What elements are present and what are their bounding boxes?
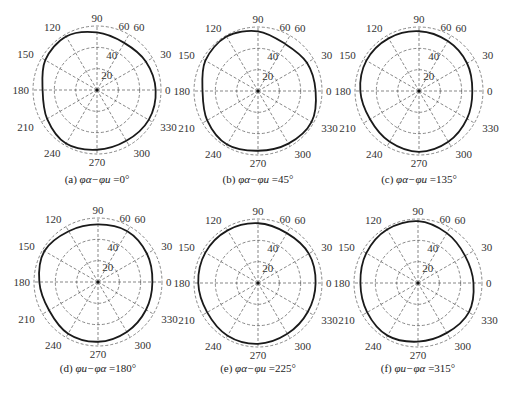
angle-label: 270 bbox=[89, 156, 106, 168]
grid-spoke bbox=[43, 282, 98, 314]
ring-label: 40 bbox=[428, 50, 440, 62]
angle-label: 150 bbox=[178, 49, 195, 61]
angle-label: 90 bbox=[413, 205, 425, 217]
angle-label: 210 bbox=[18, 313, 35, 325]
grid-spoke bbox=[258, 91, 290, 146]
angle-label: 120 bbox=[44, 21, 61, 33]
angle-label: 240 bbox=[366, 148, 383, 160]
ring-label: 20 bbox=[422, 262, 434, 274]
grid-spoke bbox=[418, 228, 450, 283]
grid-spoke bbox=[419, 91, 474, 123]
grid-spoke bbox=[363, 251, 418, 283]
panel-caption: (d) φu−φα =180° bbox=[60, 362, 136, 375]
ring-label: 60 bbox=[119, 212, 131, 224]
angle-label: 30 bbox=[481, 241, 493, 253]
pattern-curve bbox=[360, 31, 472, 152]
angle-label: 240 bbox=[205, 148, 222, 160]
ring-label: 60 bbox=[439, 213, 451, 225]
grid-spoke bbox=[258, 228, 290, 283]
center-dot bbox=[256, 89, 259, 92]
angle-label: 210 bbox=[178, 122, 195, 134]
panel-f: 0306090120150180210240270300330204060(f)… bbox=[334, 205, 499, 375]
ring-label: 40 bbox=[427, 242, 439, 254]
ring-label: 20 bbox=[102, 261, 114, 273]
panel-c: 0306090120150180210240270300330204060(c)… bbox=[335, 13, 500, 186]
angle-label: 330 bbox=[160, 121, 177, 133]
angle-label: 0 bbox=[326, 277, 332, 289]
angle-label: 0 bbox=[165, 84, 171, 96]
angle-label: 120 bbox=[365, 214, 382, 226]
center-dot bbox=[416, 281, 419, 284]
grid-spoke bbox=[258, 283, 313, 315]
angle-label: 30 bbox=[321, 49, 333, 61]
grid-spoke bbox=[226, 228, 258, 283]
grid-spoke bbox=[419, 36, 451, 91]
angle-label: 90 bbox=[414, 13, 426, 25]
angle-label: 30 bbox=[160, 48, 172, 60]
grid-spoke bbox=[419, 91, 451, 146]
ring-label: 40 bbox=[267, 50, 279, 62]
angle-label: 180 bbox=[174, 85, 191, 97]
angle-label: 330 bbox=[321, 122, 338, 134]
angle-label: 150 bbox=[17, 48, 34, 60]
angle-label: 60 bbox=[455, 214, 467, 226]
grid-spoke bbox=[387, 91, 419, 146]
grid-spoke bbox=[42, 90, 97, 122]
angle-label: 120 bbox=[45, 213, 62, 225]
grid-spoke bbox=[364, 91, 419, 123]
angle-label: 120 bbox=[205, 22, 222, 34]
grid-spoke bbox=[363, 283, 418, 315]
center-dot bbox=[256, 281, 259, 284]
panel-e: 0306090120150180210240270300330204060(e)… bbox=[174, 205, 339, 375]
grid-spoke bbox=[98, 282, 130, 337]
grid-spoke bbox=[98, 282, 153, 314]
angle-label: 60 bbox=[295, 22, 307, 34]
angle-label: 30 bbox=[482, 49, 494, 61]
panel-caption: (a) φα−φu =0° bbox=[65, 173, 130, 186]
grid-spoke bbox=[386, 228, 418, 283]
grid-spoke bbox=[203, 283, 258, 315]
angle-label: 90 bbox=[253, 13, 265, 25]
angle-label: 180 bbox=[13, 84, 30, 96]
angle-label: 120 bbox=[205, 214, 222, 226]
angle-label: 240 bbox=[365, 340, 382, 352]
panel-caption: (c) φα−φu =135° bbox=[381, 173, 457, 186]
panel-caption: (e) φα−φu =225° bbox=[220, 362, 296, 375]
grid-spoke bbox=[386, 283, 418, 338]
angle-label: 0 bbox=[486, 277, 492, 289]
angle-label: 120 bbox=[366, 22, 383, 34]
angle-label: 180 bbox=[174, 277, 191, 289]
angle-label: 150 bbox=[178, 241, 195, 253]
angle-label: 300 bbox=[455, 340, 472, 352]
angle-label: 150 bbox=[18, 240, 35, 252]
ring-label: 60 bbox=[440, 21, 452, 33]
angle-label: 240 bbox=[44, 147, 61, 159]
angle-label: 270 bbox=[410, 349, 427, 361]
grid-spoke bbox=[97, 90, 152, 122]
center-dot bbox=[417, 89, 420, 92]
angle-label: 0 bbox=[166, 276, 172, 288]
angle-label: 270 bbox=[250, 157, 267, 169]
angle-label: 210 bbox=[17, 121, 34, 133]
ring-label: 20 bbox=[262, 262, 274, 274]
panel-caption: (b) φα−φu =45° bbox=[223, 173, 294, 186]
panel-d: 0306090120150180210240270300330204060(d)… bbox=[14, 204, 179, 375]
angle-label: 300 bbox=[134, 147, 151, 159]
grid-spoke bbox=[203, 251, 258, 283]
grid-spoke bbox=[98, 227, 130, 282]
angle-label: 210 bbox=[338, 314, 355, 326]
angle-label: 300 bbox=[135, 339, 152, 351]
grid-spoke bbox=[226, 283, 258, 338]
angle-label: 240 bbox=[45, 339, 62, 351]
grid-spoke bbox=[387, 36, 419, 91]
angle-label: 90 bbox=[93, 204, 105, 216]
ring-label: 40 bbox=[107, 241, 119, 253]
grid-spoke bbox=[226, 91, 258, 146]
polar-figure: 0306090120150180210240270300330204060(a)… bbox=[0, 0, 511, 396]
ring-label: 60 bbox=[279, 213, 291, 225]
angle-label: 60 bbox=[135, 213, 147, 225]
angle-label: 210 bbox=[339, 122, 356, 134]
angle-label: 90 bbox=[92, 12, 104, 24]
angle-label: 270 bbox=[250, 349, 267, 361]
angle-label: 60 bbox=[134, 21, 146, 33]
